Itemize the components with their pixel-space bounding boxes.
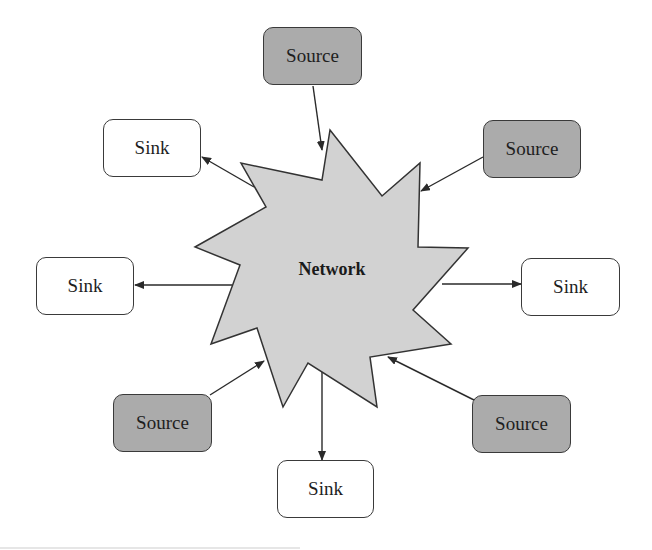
sink-label: Sink [553,276,588,298]
sink-node-right: Sink [521,258,620,316]
sink-label: Sink [308,478,343,500]
source-label: Source [506,138,559,160]
source-label: Source [495,413,548,435]
source-node-lower-left: Source [113,394,212,452]
sink-label: Sink [68,275,103,297]
arrow-source-lower-left-to-network [210,361,264,395]
source-node-upper-right: Source [483,120,581,178]
sink-node-bottom: Sink [277,460,374,518]
network-label: Network [262,259,402,280]
arrow-source-upper-right-to-network [421,157,483,191]
source-label: Source [286,45,339,67]
source-node-top: Source [263,27,362,85]
source-node-lower-right: Source [472,395,571,453]
arrow-source-top-to-network [313,86,322,150]
source-label: Source [136,412,189,434]
arrow-source-lower-right-to-network [388,357,474,400]
sink-node-left: Sink [36,257,134,315]
sink-node-upper-left: Sink [103,119,201,177]
sink-label: Sink [135,137,170,159]
divider [0,547,300,549]
